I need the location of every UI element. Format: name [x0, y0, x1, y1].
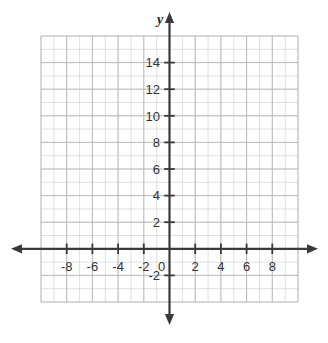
y-tick-label-8: 8 [153, 135, 160, 150]
x-tick-label-4: 4 [217, 259, 224, 274]
y-tick-label--2: -2 [148, 268, 160, 283]
x-tick-label-6: 6 [243, 259, 250, 274]
y-tick-label-2: 2 [153, 215, 160, 230]
x-tick-label--6: -6 [87, 259, 99, 274]
y-tick-label-4: 4 [153, 188, 160, 203]
coordinate-plane-figure: -8 -6 -4 -2 0 2 4 6 8 14 12 10 8 6 4 2 -… [0, 0, 328, 343]
graph-svg: -8 -6 -4 -2 0 2 4 6 8 14 12 10 8 6 4 2 -… [0, 0, 328, 343]
y-tick-label-6: 6 [153, 162, 160, 177]
x-tick-label-2: 2 [192, 259, 199, 274]
y-tick-label-14: 14 [146, 55, 160, 70]
x-tick-label--4: -4 [112, 259, 124, 274]
x-tick-label-8: 8 [269, 259, 276, 274]
x-tick-label--8: -8 [61, 259, 73, 274]
y-tick-label-10: 10 [146, 109, 160, 124]
y-axis-name-label: y [155, 12, 164, 27]
y-tick-label-12: 12 [146, 82, 160, 97]
figure-background [0, 0, 328, 343]
